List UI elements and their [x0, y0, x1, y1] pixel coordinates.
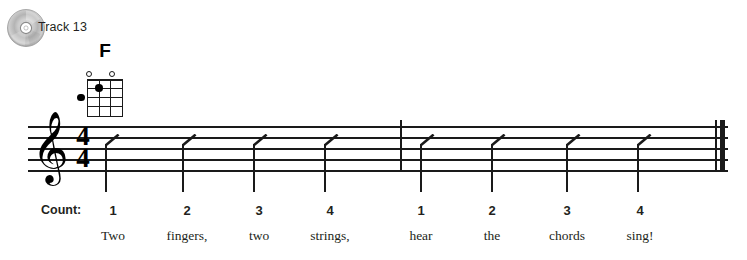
treble-clef-icon: 𝄞 [32, 111, 66, 183]
slash-stem [324, 144, 326, 192]
slash-stem [253, 144, 255, 192]
count-beat-8: 4 [625, 203, 655, 218]
rhythm-slash-1 [105, 134, 121, 192]
fret-line-4 [87, 116, 123, 117]
chord-grid-wrapper [87, 70, 125, 118]
track-label: Track 13 [38, 20, 87, 34]
finger-dot-string1-fret2 [77, 94, 85, 102]
lyric-word-2: fingers, [147, 228, 227, 244]
rhythm-slash-3 [253, 134, 269, 192]
slash-head [566, 134, 581, 146]
slash-head [324, 134, 339, 146]
count-beat-7: 3 [552, 203, 582, 218]
finger-dot-string3-fret1 [95, 84, 103, 92]
sheet-music-page: Track 13 F [0, 0, 747, 260]
slash-stem [637, 144, 639, 192]
string-line-2 [110, 79, 111, 117]
lyric-word-6: the [452, 228, 532, 244]
count-beat-2: 2 [172, 203, 202, 218]
lyric-word-8: sing! [600, 228, 680, 244]
open-string-markers [87, 70, 125, 79]
count-beat-4: 4 [315, 203, 345, 218]
staff-line-2 [28, 159, 728, 161]
slash-head [637, 134, 652, 146]
fret-line-2 [87, 97, 123, 98]
lyric-word-7: chords [527, 228, 607, 244]
staff-line-5 [28, 126, 728, 128]
final-barline-thick [720, 120, 725, 172]
slash-head [253, 134, 268, 146]
slash-stem [491, 144, 493, 192]
rhythm-slash-8 [637, 134, 653, 192]
string-line-4 [87, 79, 88, 117]
rhythm-slash-7 [566, 134, 582, 192]
lyric-word-5: hear [381, 228, 461, 244]
lyric-word-1: Two [73, 228, 153, 244]
count-beat-6: 2 [477, 203, 507, 218]
count-beat-5: 1 [406, 203, 436, 218]
final-barline-thin [715, 120, 717, 172]
string-line-1 [122, 79, 123, 117]
open-string-circle-4 [86, 71, 92, 77]
fret-line-1 [87, 88, 123, 89]
slash-stem [566, 144, 568, 192]
barline-measure-1 [400, 120, 402, 172]
slash-head [105, 134, 120, 146]
fret-line-3 [87, 106, 123, 107]
music-staff: 𝄞 4 4 [28, 120, 728, 206]
rhythm-slash-5 [420, 134, 436, 192]
slash-head [420, 134, 435, 146]
time-signature: 4 4 [72, 125, 94, 173]
open-string-circle-1 [109, 71, 115, 77]
chord-name-label: F [83, 40, 127, 62]
lyric-word-3: two [219, 228, 299, 244]
slash-stem [105, 144, 107, 192]
slash-stem [182, 144, 184, 192]
count-beat-1: 1 [98, 203, 128, 218]
chord-diagram: F [83, 40, 143, 118]
count-label: Count: [41, 203, 81, 217]
rhythm-slash-2 [182, 134, 198, 192]
slash-stem [420, 144, 422, 192]
chord-fretboard [87, 79, 123, 117]
staff-line-1 [28, 170, 728, 172]
time-signature-beat-value: 4 [72, 146, 94, 170]
rhythm-slash-6 [491, 134, 507, 192]
staff-line-3 [28, 148, 728, 150]
staff-line-4 [28, 137, 728, 139]
nut-line [87, 79, 123, 81]
lyric-word-4: strings, [290, 228, 370, 244]
slash-head [182, 134, 197, 146]
count-beat-3: 3 [244, 203, 274, 218]
rhythm-slash-4 [324, 134, 340, 192]
slash-head [491, 134, 506, 146]
